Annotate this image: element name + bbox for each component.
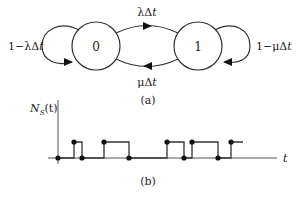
event-dot <box>126 155 131 160</box>
self-loop-1-arrow <box>215 26 250 62</box>
event-dot <box>189 139 194 144</box>
arrowhead-1-to-0-icon <box>143 62 152 70</box>
state-transition-diagram: 0 1 λΔt μΔt 1−λΔt 1−μΔt (a) <box>8 6 292 107</box>
event-dot <box>181 155 186 160</box>
transition-1-to-0-label: μΔt <box>137 76 157 89</box>
transition-0-to-1-label: λΔt <box>137 6 157 19</box>
caption-a: (a) <box>140 94 155 107</box>
event-dot <box>164 139 169 144</box>
self-loop-1-label: 1−μΔt <box>256 40 292 53</box>
event-dot <box>101 139 106 144</box>
caption-b: (b) <box>140 175 156 188</box>
step-trace <box>58 142 243 158</box>
step-function-plot: NS(t) t (b) <box>29 100 288 188</box>
event-dot <box>215 155 220 160</box>
self-loop-0-arrow <box>42 26 79 63</box>
arrowhead-self-0-icon <box>64 58 73 66</box>
event-dot <box>79 155 84 160</box>
state-0-label: 0 <box>92 40 100 54</box>
x-axis-label: t <box>283 152 288 165</box>
y-axis-label: NS(t) <box>29 102 57 117</box>
arrowhead-self-1-icon <box>223 58 232 66</box>
event-dot <box>55 155 60 160</box>
markov-diagram: 0 1 λΔt μΔt 1−λΔt 1−μΔt (a) NS(t) t <box>0 0 296 197</box>
arrowhead-0-to-1-icon <box>143 22 152 30</box>
event-dot <box>228 139 233 144</box>
self-loop-0-label: 1−λΔt <box>8 40 44 53</box>
state-1-label: 1 <box>194 40 202 54</box>
event-dot <box>71 139 76 144</box>
